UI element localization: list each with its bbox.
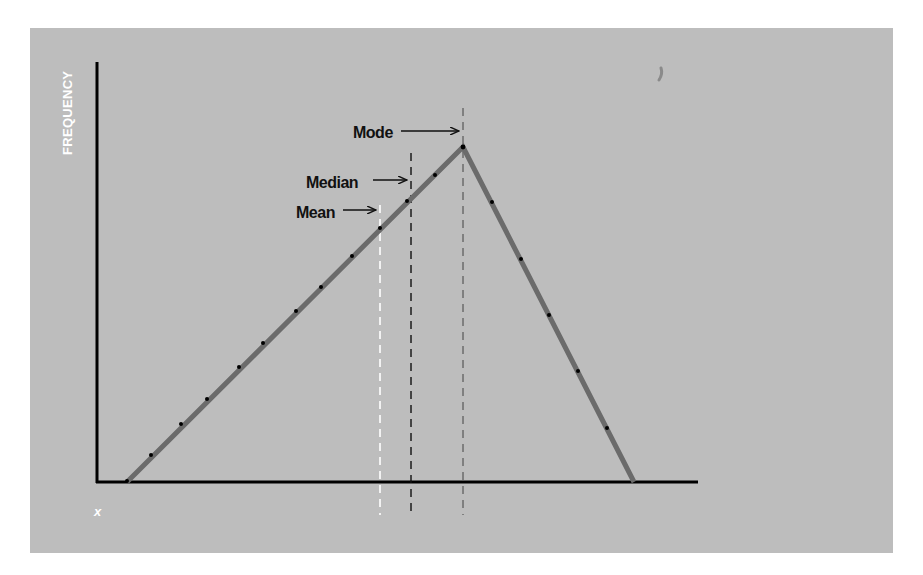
smudge-mark [659,68,662,80]
median-label: Median [306,174,358,191]
y-axis-label: FREQUENCY [60,71,75,155]
x-axis-label: x [93,504,102,519]
mode-label: Mode [353,124,393,141]
mean-label: Mean [296,204,335,221]
curve-dots [125,145,609,483]
distribution-diagram: FREQUENCY x Mode Median Mea [0,0,923,575]
